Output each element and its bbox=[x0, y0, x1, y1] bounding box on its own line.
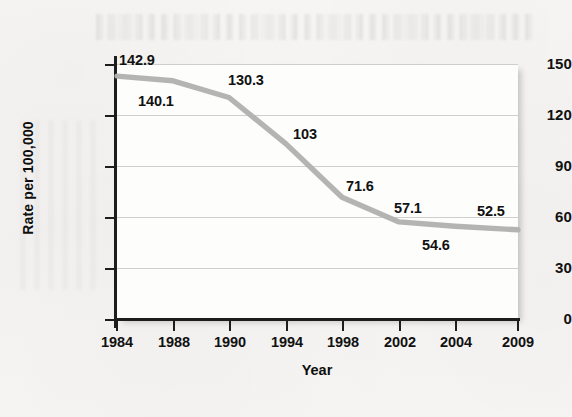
point-label-1988: 140.1 bbox=[138, 93, 174, 109]
point-label-2002: 57.1 bbox=[394, 200, 422, 216]
point-label-1984: 142.9 bbox=[119, 52, 155, 68]
point-label-2009: 52.5 bbox=[477, 203, 505, 219]
line-chart-figure: 150 120 90 60 30 0 1984 1988 1990 1994 1… bbox=[0, 0, 572, 417]
x-axis-title: Year bbox=[116, 362, 518, 378]
point-label-1990: 130.3 bbox=[228, 72, 264, 88]
point-label-1994: 103 bbox=[293, 126, 317, 142]
y-axis-title: Rate per 100,000 bbox=[20, 93, 36, 263]
point-label-2004: 54.6 bbox=[422, 237, 450, 253]
point-label-1998: 71.6 bbox=[346, 178, 374, 194]
series-line-rate bbox=[117, 76, 518, 230]
